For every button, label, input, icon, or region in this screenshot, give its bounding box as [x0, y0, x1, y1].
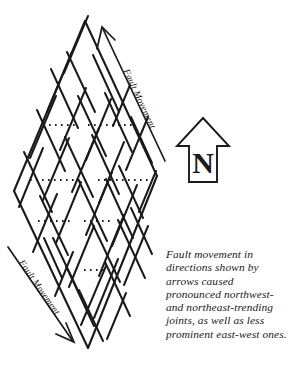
caption: Fault movement in directions shown by ar…	[166, 248, 294, 341]
fault-movement-label-bottom: Fault Movement	[16, 257, 62, 317]
fault-movement-label-top: Fault Movement	[121, 66, 158, 130]
caption-line: Fault movement in	[166, 248, 294, 261]
arrow-head-top	[97, 27, 115, 49]
caption-line: pronounced northwest-	[166, 288, 294, 301]
fault-movement-arrow-top	[97, 27, 165, 161]
caption-line: prominent east-west ones.	[166, 328, 294, 341]
rhombus-outline	[14, 21, 157, 348]
caption-line: directions shown by	[166, 261, 294, 274]
caption-line: arrows caused	[166, 275, 294, 288]
figure-root: Fault Movement Fault Movement N Fault mo…	[0, 0, 296, 372]
north-letter: N	[192, 146, 214, 179]
caption-line: and northeast-trending	[166, 301, 294, 314]
caption-line: joints, as well as less	[166, 314, 294, 327]
